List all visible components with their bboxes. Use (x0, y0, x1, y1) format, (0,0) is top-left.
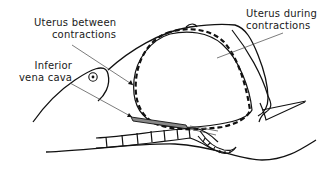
label-line-1: Uterus between (34, 17, 116, 29)
umbilicus-icon (89, 73, 97, 81)
abdominal-wall-outline (108, 24, 268, 116)
label-line-1: Uterus during (246, 8, 317, 20)
uterus-relaxed-outline (134, 32, 252, 127)
label-uterus-between-contractions: Uterus between contractions (34, 17, 116, 41)
leader-line-vena-cava (70, 83, 132, 117)
thigh-inner-line (262, 101, 306, 110)
label-inferior-vena-cava: Inferior vena cava (19, 60, 72, 84)
label-line-2: contractions (246, 20, 317, 32)
lower-body-outline (46, 140, 316, 160)
label-line-1: Inferior (19, 60, 72, 72)
label-uterus-during-contractions: Uterus during contractions (246, 8, 317, 32)
label-line-2: vena cava (19, 72, 72, 84)
label-line-2: contractions (34, 29, 116, 41)
leader-line-uterus-between (72, 45, 133, 85)
